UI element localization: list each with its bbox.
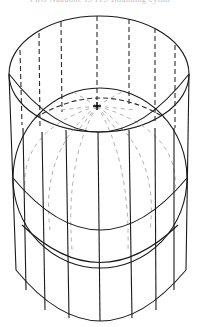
cylinder-left-side	[9, 74, 16, 270]
cylinder-bottom-arc	[16, 270, 186, 321]
cylinder-front-lines	[23, 128, 174, 321]
sphere-meridians	[25, 90, 176, 250]
cylinder-sphere-diagram	[0, 0, 200, 327]
top-ellipse-front-arc	[9, 74, 189, 132]
equator-arc	[13, 178, 187, 230]
sphere-bottom-arc	[22, 225, 178, 263]
